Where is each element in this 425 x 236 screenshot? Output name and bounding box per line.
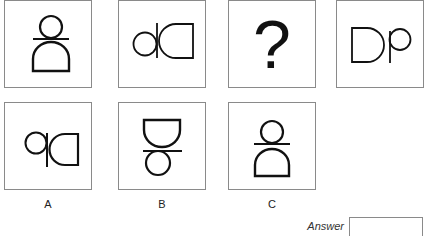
sequence-box-4 <box>336 0 424 88</box>
mirrored-qd-glyph-icon <box>5 103 91 189</box>
sequence-box-1 <box>4 0 92 88</box>
answer-label: Answer <box>300 220 344 232</box>
mirrored-dd-glyph-icon <box>119 1 205 87</box>
answer-input[interactable] <box>349 217 423 236</box>
dp-glyph-icon <box>337 1 423 87</box>
rotated-db-glyph-icon <box>5 1 91 87</box>
sequence-box-3-question: ? <box>228 0 316 88</box>
circle-over-dome-glyph-icon <box>229 103 315 189</box>
option-c-label: C <box>228 198 316 210</box>
option-a-box[interactable] <box>4 102 92 190</box>
option-b-label: B <box>118 198 206 210</box>
sequence-box-2 <box>118 0 206 88</box>
inverted-dome-over-circle-glyph-icon <box>119 103 205 189</box>
question-mark-icon: ? <box>229 1 315 87</box>
option-a-label: A <box>4 198 92 210</box>
option-b-box[interactable] <box>118 102 206 190</box>
option-c-box[interactable] <box>228 102 316 190</box>
